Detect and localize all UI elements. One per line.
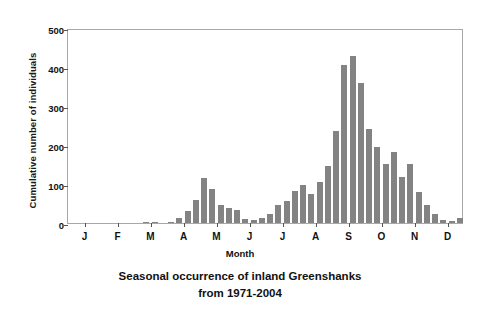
y-axis-tick-mark <box>64 69 68 70</box>
y-axis-tick-mark <box>64 30 68 31</box>
bar <box>259 218 265 223</box>
bar <box>201 178 207 223</box>
bar <box>399 177 405 223</box>
y-axis-tick-mark <box>64 147 68 148</box>
bar <box>350 56 356 223</box>
bar <box>300 185 306 223</box>
x-axis-tick-label: A <box>180 231 187 242</box>
bar <box>168 222 174 223</box>
x-axis-tick-label: M <box>146 231 154 242</box>
bar <box>242 219 248 223</box>
x-axis-tick-mark <box>316 223 317 227</box>
bar <box>325 166 331 223</box>
x-axis-tick-mark <box>283 223 284 227</box>
bar <box>234 210 240 223</box>
bar <box>440 220 446 223</box>
y-axis-tick-label: 300 <box>48 103 64 114</box>
bar <box>358 83 364 223</box>
bar <box>284 201 290 223</box>
x-axis-tick-mark <box>415 223 416 227</box>
x-axis-tick-mark <box>118 223 119 227</box>
bar <box>251 220 257 223</box>
y-axis-tick-mark <box>64 186 68 187</box>
x-axis-tick-label: F <box>114 231 120 242</box>
bar <box>143 222 149 223</box>
bar <box>424 205 430 223</box>
bar <box>176 218 182 223</box>
x-axis-tick-mark <box>85 223 86 227</box>
bar <box>374 147 380 223</box>
y-axis-tick-label: 200 <box>48 142 64 153</box>
chart-figure: Cumulative number of individuals 0100200… <box>0 0 480 318</box>
x-axis-tick-mark <box>250 223 251 227</box>
x-axis-tick-mark <box>217 223 218 227</box>
bar <box>193 200 199 223</box>
x-axis-tick-label: N <box>411 231 418 242</box>
y-axis-title: Cumulative number of individuals <box>27 31 38 231</box>
x-axis-tick-label: J <box>82 231 88 242</box>
bar <box>267 214 273 223</box>
bar <box>226 208 232 223</box>
bar <box>391 152 397 223</box>
x-axis-tick-label: A <box>312 231 319 242</box>
bar <box>457 218 463 223</box>
chart-title-line-2: from 1971-2004 <box>0 285 480 302</box>
chart-title: Seasonal occurrence of inland Greenshank… <box>0 268 480 302</box>
bar <box>407 164 413 223</box>
bar <box>432 214 438 223</box>
bar <box>341 65 347 223</box>
plot-area: 0100200300400500JFMAMJJASOND <box>67 29 463 224</box>
bar <box>333 131 339 223</box>
bar <box>449 221 455 223</box>
x-axis-tick-label: D <box>444 231 451 242</box>
x-axis-title: Month <box>0 248 480 259</box>
bar <box>383 164 389 223</box>
bar <box>317 182 323 223</box>
x-axis-tick-mark <box>151 223 152 227</box>
y-axis-tick-label: 400 <box>48 64 64 75</box>
x-axis-tick-mark <box>448 223 449 227</box>
bar <box>152 222 158 223</box>
y-axis-tick-label: 100 <box>48 181 64 192</box>
bar <box>218 205 224 223</box>
x-axis-tick-label: J <box>280 231 286 242</box>
y-axis-tick-mark <box>64 108 68 109</box>
x-axis-tick-label: O <box>378 231 386 242</box>
x-axis-tick-label: M <box>212 231 220 242</box>
x-axis-tick-mark <box>382 223 383 227</box>
bar-series <box>68 30 462 223</box>
y-axis-tick-mark <box>64 225 68 226</box>
bar <box>308 194 314 223</box>
x-axis-tick-label: S <box>345 231 352 242</box>
bar <box>416 192 422 223</box>
x-axis-tick-mark <box>184 223 185 227</box>
bar <box>185 211 191 223</box>
bar <box>209 189 215 223</box>
bar <box>292 191 298 223</box>
x-axis-tick-mark <box>349 223 350 227</box>
bar <box>275 205 281 223</box>
bar <box>366 129 372 223</box>
chart-title-line-1: Seasonal occurrence of inland Greenshank… <box>0 268 480 285</box>
x-axis-tick-label: J <box>247 231 253 242</box>
y-axis-tick-label: 500 <box>48 25 64 36</box>
